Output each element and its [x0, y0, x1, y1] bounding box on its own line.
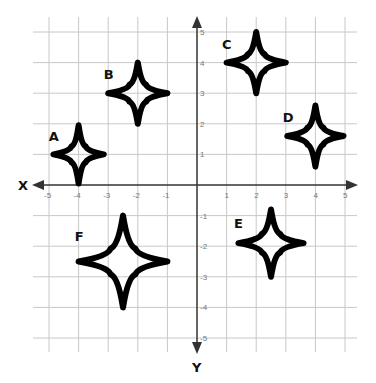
coordinate-plane: X Y -5-4-3-2-11234554321-1-2-3-4-5 ABCDE… — [0, 0, 376, 383]
y-tick-label: 2 — [200, 120, 205, 129]
x-axis-label: X — [18, 178, 28, 193]
y-axis-down-arrow-icon — [192, 342, 202, 354]
y-axis-label: Y — [191, 360, 202, 375]
star-label: B — [104, 67, 114, 82]
star-label: A — [49, 129, 59, 144]
star-d: D — [283, 105, 344, 166]
y-tick-label: 3 — [200, 89, 205, 98]
star-e: E — [234, 209, 303, 276]
y-tick-label: -2 — [200, 242, 208, 251]
star-label: D — [283, 110, 294, 125]
star-label: E — [234, 216, 243, 231]
star-f: F — [75, 216, 168, 308]
y-tick-label: 1 — [200, 150, 205, 159]
star-label: C — [222, 37, 232, 52]
y-tick-label: -1 — [200, 212, 208, 221]
x-tick-label: -5 — [44, 191, 52, 200]
y-axis-up-arrow-icon — [192, 16, 202, 28]
star-label: F — [75, 229, 84, 244]
stars: ABCDEF — [49, 32, 344, 307]
x-tick-label: 1 — [225, 191, 230, 200]
x-axis-right-arrow-icon — [346, 180, 358, 190]
x-tick-label: 3 — [284, 191, 289, 200]
x-tick-label: -4 — [74, 191, 82, 200]
y-tick-label: -5 — [200, 334, 208, 343]
x-tick-label: 2 — [254, 191, 259, 200]
y-tick-label: -3 — [200, 273, 208, 282]
y-tick-label: 5 — [200, 28, 205, 37]
x-tick-label: 5 — [343, 191, 348, 200]
x-tick-label: -2 — [133, 191, 141, 200]
y-tick-label: -4 — [200, 303, 208, 312]
x-tick-label: 4 — [313, 191, 318, 200]
axes: X Y — [18, 16, 358, 375]
x-tick-label: -3 — [103, 191, 111, 200]
x-tick-label: -1 — [162, 191, 170, 200]
four-point-star-icon — [238, 209, 303, 276]
x-axis-left-arrow-icon — [32, 180, 44, 190]
four-point-star-icon — [79, 216, 168, 308]
y-tick-label: 4 — [200, 59, 205, 68]
